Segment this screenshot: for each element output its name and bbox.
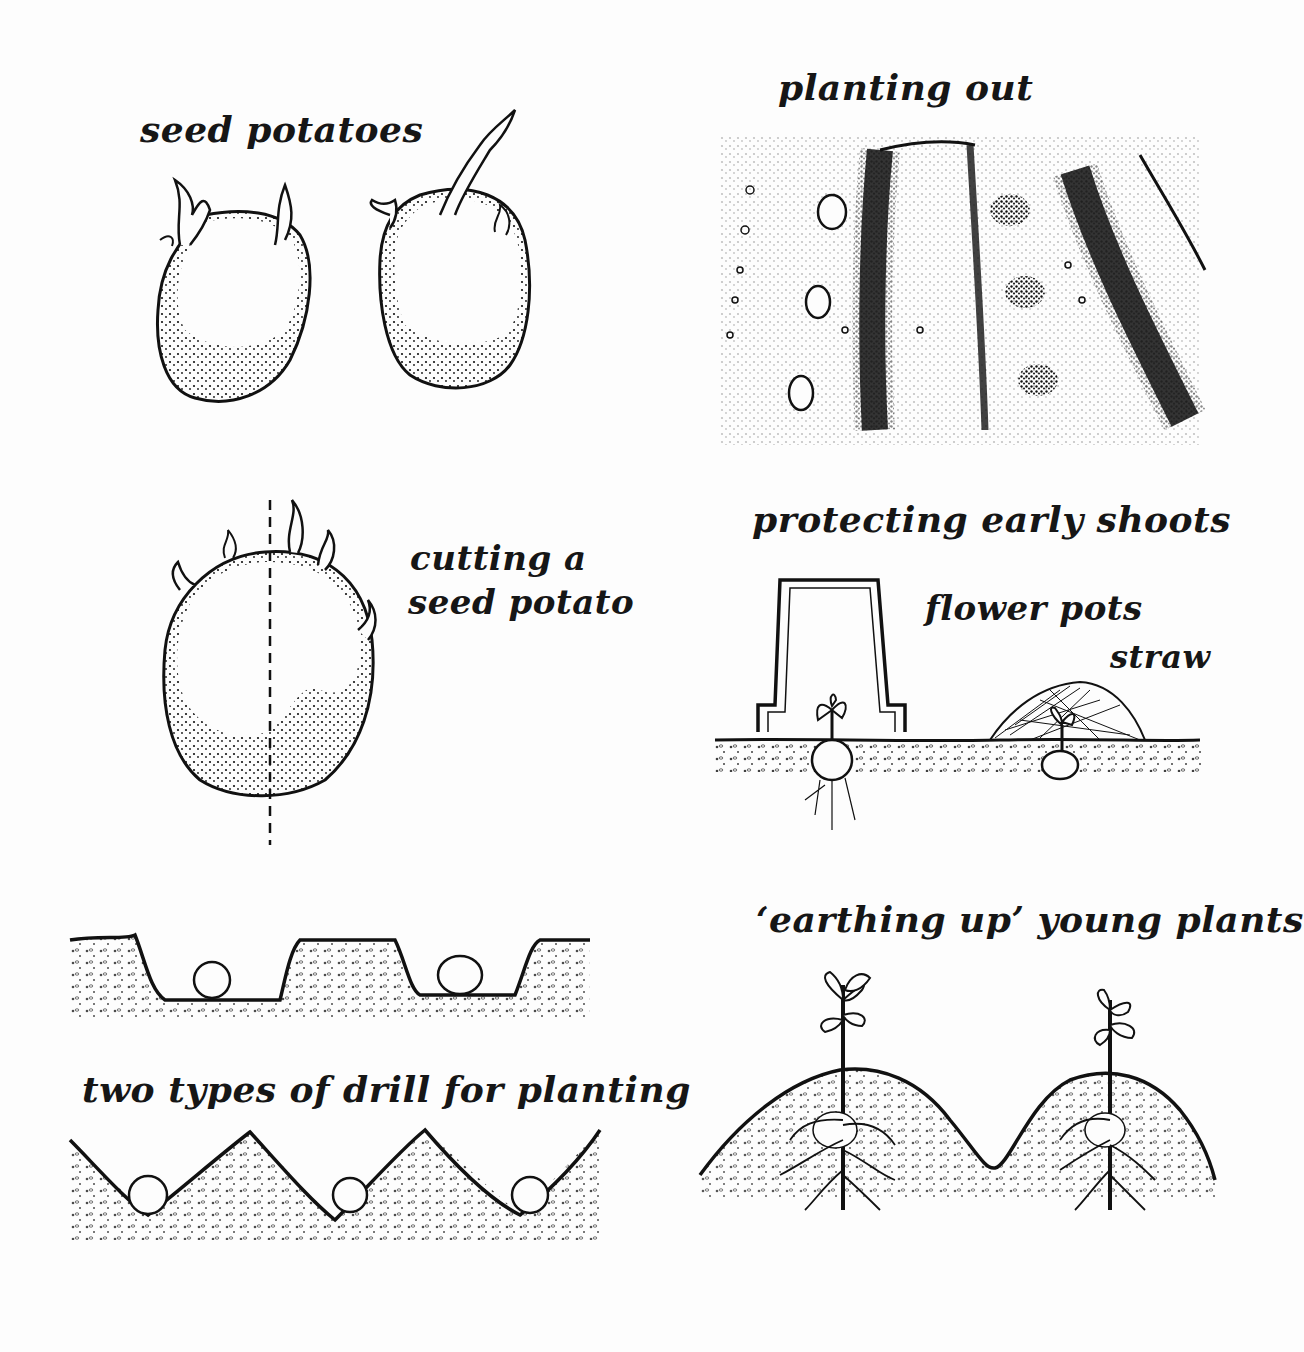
cut-seed-potato [164, 500, 376, 845]
ridge-drill [70, 1130, 600, 1240]
earthing-up-ridges [700, 972, 1215, 1210]
seed-potato-left [157, 180, 310, 401]
flat-drill [70, 935, 590, 1020]
seed-potato-right [371, 110, 530, 388]
flower-pot-protection [712, 580, 1202, 830]
planting-out-trenches [720, 135, 1205, 445]
